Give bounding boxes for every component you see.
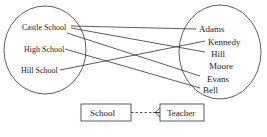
line-high-bell bbox=[65, 49, 200, 88]
crows-foot-icon bbox=[155, 108, 160, 117]
teacher-entity-label: Teacher bbox=[167, 108, 195, 118]
school-teacher-diagram: Castle School High School Hill School Ad… bbox=[0, 0, 267, 137]
school-label: High School bbox=[24, 45, 65, 54]
line-castle-adams bbox=[71, 26, 196, 29]
school-entity-label: School bbox=[90, 108, 116, 118]
mapping-lines bbox=[60, 26, 205, 88]
teacher-label: Adams bbox=[199, 24, 225, 34]
school-label: Castle School bbox=[22, 23, 67, 32]
line-hill-kennedy bbox=[60, 41, 205, 70]
teacher-label: Kennedy bbox=[208, 37, 241, 47]
teacher-label: Bell bbox=[203, 85, 218, 95]
teacher-label: Evans bbox=[207, 74, 229, 84]
school-label: Hill School bbox=[21, 66, 58, 75]
teacher-label: Hill bbox=[211, 49, 226, 59]
line-castle-hill bbox=[71, 28, 205, 52]
teacher-label: Moore bbox=[209, 61, 233, 71]
